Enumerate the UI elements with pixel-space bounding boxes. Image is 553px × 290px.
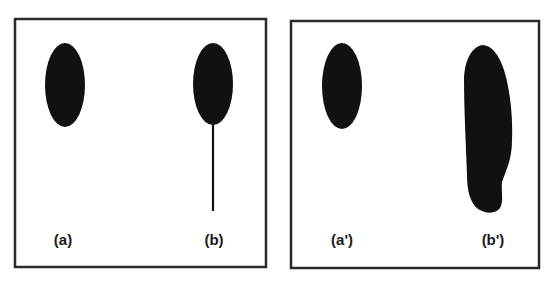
label-b: (b) [204, 231, 223, 248]
panel-left: (a) (b) [15, 19, 266, 267]
shape-a-prime-ellipse [322, 43, 362, 129]
panel-right: (a') (b') [291, 21, 539, 268]
label-a: (a) [54, 231, 72, 248]
figure: (a) (b) (a') (b') [0, 0, 553, 290]
shape-a-ellipse [45, 43, 85, 127]
label-b-prime: (b') [482, 231, 505, 248]
shape-b-ellipse [193, 43, 233, 125]
label-a-prime: (a') [331, 231, 353, 248]
shape-b-prime-blob [464, 45, 512, 213]
